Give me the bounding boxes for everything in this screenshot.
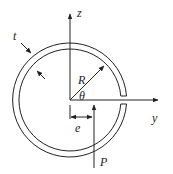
thickness-label: t <box>13 29 17 43</box>
thickness-inner-arrow <box>37 71 45 79</box>
radius-label: R <box>77 73 86 87</box>
cross-section-diagram: z y R θ t e P <box>0 0 173 174</box>
thickness-outer-arrow <box>21 43 31 53</box>
eccentricity-label: e <box>75 121 81 135</box>
load-label: P <box>99 155 108 169</box>
radius-arrow <box>70 66 104 100</box>
z-axis-label: z <box>76 6 82 20</box>
angle-label: θ <box>79 89 85 103</box>
y-axis-label: y <box>151 111 158 125</box>
